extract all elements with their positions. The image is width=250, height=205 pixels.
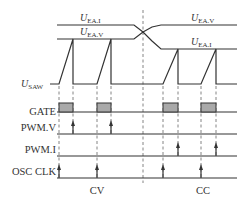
u-ea-v-label-right: UEA.V [191, 12, 214, 25]
u-ea-i-label-left: UEA.I [80, 12, 101, 25]
osc-clk-arrow-icon [199, 164, 203, 178]
osc-clk-arrow-icon [95, 164, 99, 178]
gate-pulse [201, 103, 216, 112]
pwm-i-label: PWM.I [25, 144, 57, 155]
gate-pulse [97, 103, 111, 112]
gate-pulse [163, 103, 178, 112]
pwm-i-arrow-icon [176, 142, 180, 156]
pwm-v-label: PWM.V [21, 122, 57, 133]
u-ea-v-label-left: UEA.V [80, 26, 103, 39]
cv-mode-label: CV [90, 185, 105, 196]
timing-diagram: UEA.I UEA.V UEA.V UEA.I USAW GATE PWM.V … [0, 0, 250, 205]
timing-guides [59, 86, 216, 178]
gate-pulse [59, 103, 73, 112]
pwm-v-arrow-icon [109, 120, 113, 134]
gate-label: GATE [29, 106, 56, 117]
pwm-v-arrow-icon [71, 120, 75, 134]
osc-clk-arrow-icon [57, 164, 61, 178]
osc-clk-arrow-icon [161, 164, 165, 178]
pwm-i-arrow-icon [214, 142, 218, 156]
u-saw-label: USAW [21, 78, 44, 91]
cc-mode-label: CC [196, 185, 210, 196]
osc-clk-label: OSC CLK [12, 166, 56, 177]
u-ea-i-label-right: UEA.I [191, 36, 212, 49]
